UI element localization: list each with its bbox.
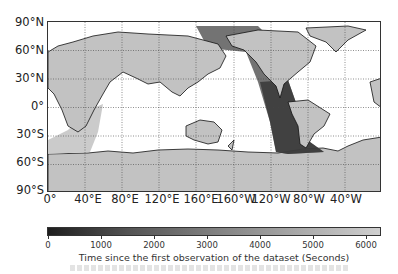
colorbar-tick bbox=[260, 236, 261, 239]
new-zealand-landmass bbox=[228, 140, 234, 150]
y-tick-label: 30°S bbox=[16, 128, 44, 140]
colorbar-tick-label: 1000 bbox=[90, 240, 112, 250]
x-tick-label: 0° bbox=[43, 193, 56, 205]
y-tick-label: 90°S bbox=[16, 184, 44, 196]
eurasia-africa-landmass bbox=[48, 32, 226, 132]
colorbar-label: Time since the first observation of the … bbox=[0, 252, 398, 263]
x-tick-label: 120°W bbox=[251, 193, 290, 205]
colorbar-tick bbox=[101, 236, 102, 239]
y-tick-label: 0° bbox=[31, 100, 44, 112]
x-tick-label: 80°W bbox=[293, 193, 325, 205]
colorbar-tick-label: 6000 bbox=[355, 240, 377, 250]
x-tick-label: 120°E bbox=[145, 193, 180, 205]
colorbar-tick-label: 4000 bbox=[249, 240, 271, 250]
x-tick-label: 160°E bbox=[184, 193, 219, 205]
map-plot-area bbox=[47, 21, 381, 192]
colorbar-tick bbox=[48, 236, 49, 239]
x-tick-label: 40°E bbox=[74, 193, 102, 205]
colorbar-tick bbox=[154, 236, 155, 239]
australia-landmass bbox=[186, 120, 222, 144]
y-tick-label: 90°N bbox=[15, 16, 44, 28]
colorbar-tick bbox=[366, 236, 367, 239]
world-map bbox=[48, 22, 381, 192]
colorbar bbox=[47, 227, 381, 236]
x-tick-label: 40°W bbox=[330, 193, 362, 205]
faded-caption bbox=[70, 265, 350, 271]
x-tick-label: 80°E bbox=[111, 193, 139, 205]
colorbar-tick bbox=[207, 236, 208, 239]
colorbar-tick-label: 3000 bbox=[196, 240, 218, 250]
colorbar-tick-label: 0 bbox=[45, 240, 50, 250]
y-tick-label: 60°N bbox=[15, 44, 44, 56]
west-africa-edge bbox=[370, 78, 381, 108]
y-tick-label: 60°S bbox=[16, 156, 44, 168]
y-tick-label: 30°N bbox=[15, 72, 44, 84]
colorbar-tick-label: 5000 bbox=[302, 240, 324, 250]
x-tick-label: 160°W bbox=[216, 193, 255, 205]
colorbar-tick-label: 2000 bbox=[143, 240, 165, 250]
colorbar-tick bbox=[313, 236, 314, 239]
